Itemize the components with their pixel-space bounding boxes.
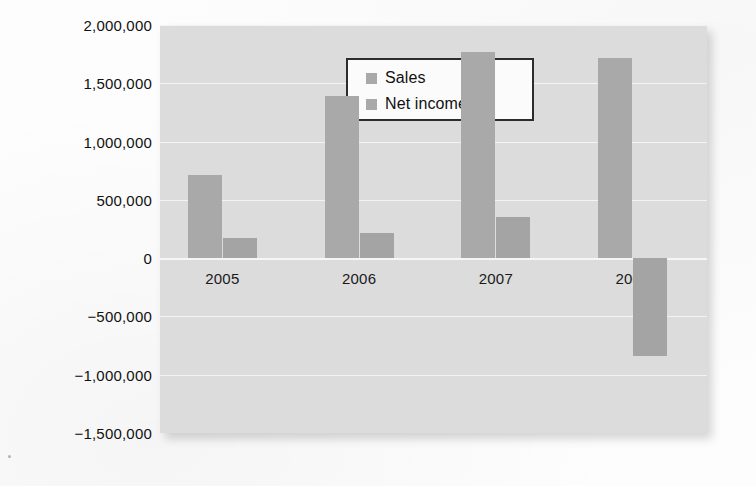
y-tick-label: 1,500,000	[83, 75, 152, 92]
plot-area: 2005200620072008 Sales Net income	[160, 25, 707, 433]
bar-net-income-2007	[496, 217, 530, 258]
bar-sales-2006	[325, 96, 359, 258]
y-tick-label: 2,000,000	[83, 17, 152, 34]
bar-chart-figure: 2,000,0001,500,0001,000,000500,0000−500,…	[0, 0, 756, 486]
y-tick-label: −1,500,000	[75, 425, 153, 442]
y-tick-label: −1,000,000	[75, 366, 153, 383]
scan-artifact-speck	[8, 455, 11, 458]
bar-sales-2005	[188, 175, 222, 258]
bar-net-income-2008	[633, 258, 667, 356]
y-axis-tick-labels: 2,000,0001,500,0001,000,000500,0000−500,…	[0, 25, 152, 433]
bar-net-income-2005	[223, 238, 257, 258]
y-tick-label: −500,000	[87, 308, 152, 325]
y-tick-label: 1,000,000	[83, 133, 152, 150]
plot-inner: 2005200620072008	[160, 25, 707, 433]
y-tick-label: 500,000	[96, 191, 152, 208]
y-tick-label: 0	[143, 250, 152, 267]
bar-series-container	[160, 25, 707, 433]
bar-sales-2008	[598, 58, 632, 259]
bar-sales-2007	[461, 52, 495, 258]
bar-net-income-2006	[360, 233, 394, 258]
